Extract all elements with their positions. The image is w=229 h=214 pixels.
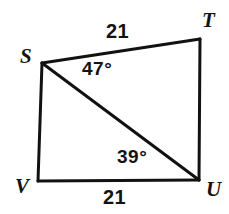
geometry-diagram: S T U V 21 21 47° 39°	[0, 0, 229, 214]
vertex-label-u: U	[206, 179, 221, 200]
vertex-label-t: T	[202, 10, 215, 31]
edge-UV	[38, 180, 199, 181]
angle-label-tsu: 47°	[82, 59, 112, 78]
vertex-label-s: S	[20, 46, 32, 67]
edge-ST	[42, 39, 200, 63]
side-length-label-vu: 21	[103, 187, 126, 207]
side-length-label-st: 21	[106, 21, 129, 41]
edge-VS	[38, 63, 42, 181]
angle-label-suv: 39°	[117, 147, 147, 166]
vertex-label-v: V	[15, 176, 29, 197]
edge-TU	[199, 39, 200, 180]
